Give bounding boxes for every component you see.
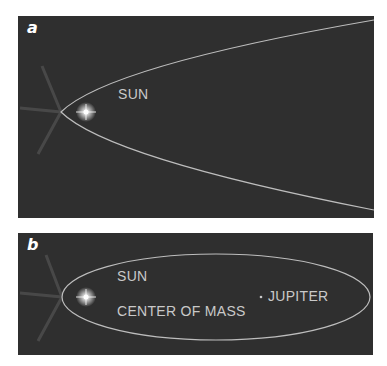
center-of-mass-label: CENTER OF MASS (117, 303, 246, 319)
parabola-orbit-diagram (18, 16, 374, 218)
parabola-orbit-path (61, 20, 374, 210)
jupiter-dot-icon (260, 296, 263, 299)
panel-a-parabolic-orbit: a SUN (18, 16, 374, 218)
sun-label: SUN (118, 86, 148, 102)
panel-b-elliptical-orbit: b SUN CENTER OF MASS JUPITER (18, 233, 373, 355)
sun-label: SUN (117, 268, 147, 284)
panel-a-label: a (27, 18, 38, 37)
jupiter-label: JUPITER (268, 288, 328, 304)
panel-b-label: b (27, 235, 38, 254)
